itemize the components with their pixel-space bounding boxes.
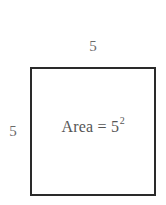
area-expression-base: Area = 5 — [62, 118, 120, 135]
area-expression-exponent: 2 — [120, 115, 125, 126]
top-side-length-label: 5 — [30, 39, 156, 54]
left-side-length-label: 5 — [0, 124, 26, 139]
geometry-figure: 5 5 Area = 52 — [0, 0, 166, 205]
square-shape: Area = 52 — [30, 67, 156, 196]
area-expression: Area = 52 — [32, 119, 154, 135]
